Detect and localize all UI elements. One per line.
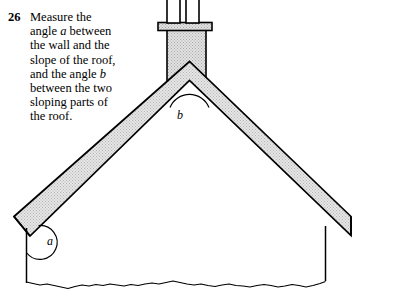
chimney-pot-right	[186, 0, 199, 23]
exercise-page: 26 Measure theangle a betweenthe wall an…	[0, 0, 396, 296]
chimney-cap	[158, 23, 212, 31]
roof-slab	[14, 62, 351, 237]
angle-label-a: a	[47, 234, 53, 248]
chimney-pot-left	[167, 0, 180, 23]
angle-arc-b	[170, 94, 209, 107]
house-diagram: a b	[0, 0, 396, 296]
ground-line	[27, 281, 326, 289]
angle-label-b: b	[177, 108, 183, 122]
